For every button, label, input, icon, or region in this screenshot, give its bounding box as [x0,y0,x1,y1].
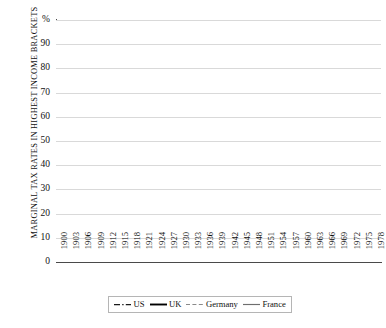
x-tick-label: 1960 [304,232,313,266]
legend-swatch-france [243,301,260,308]
x-tick-label: 1927 [170,232,179,266]
gridline [56,189,381,190]
legend-label: US [134,300,145,309]
gridline [56,117,381,118]
legend-swatch-uk [150,301,167,308]
x-tick-label: 1942 [231,232,240,266]
y-tick-label: 0 [22,257,50,267]
legend-label: France [262,300,285,309]
y-tick-label: 80 [22,63,50,73]
gridline [56,44,381,45]
gridline [56,141,381,142]
legend-item-germany[interactable]: Germany [186,300,237,309]
legend-label: UK [169,300,181,309]
y-tick-label: 50 [22,136,50,146]
x-tick-label: 1966 [328,232,337,266]
x-tick-label: 1975 [365,232,374,266]
marginal-tax-rates-chart: MARGINAL TAX RATES IN HIGHEST INCOME BRA… [0,0,386,328]
gridline [56,68,381,69]
legend-swatch-germany [186,301,203,308]
x-tick-label: 1915 [121,232,130,266]
legend-item-france[interactable]: France [243,300,286,309]
y-tick-label: 60 [22,112,50,122]
legend-item-us[interactable]: US [114,300,145,309]
x-tick-label: 1936 [206,232,215,266]
x-tick-label: 1954 [279,232,288,266]
x-tick-label: 1924 [158,232,167,266]
chart-legend: USUKGermanyFrance [108,296,292,313]
y-tick-label: 20 [22,209,50,219]
gridline [56,93,381,94]
x-tick-label: 1945 [243,232,252,266]
x-tick-label: 1933 [194,232,203,266]
x-tick-label: 1909 [97,232,106,266]
x-tick-label: 1957 [292,232,301,266]
gridline [56,165,381,166]
y-tick-label: 40 [22,160,50,170]
x-tick-label: 1906 [84,232,93,266]
y-tick-label: 90 [22,39,50,49]
x-tick-label: 1972 [353,232,362,266]
x-tick-label: 1969 [340,232,349,266]
y-tick-label: % [22,15,50,25]
x-tick-label: 1930 [182,232,191,266]
x-tick-label: 1918 [133,232,142,266]
x-tick-label: 1921 [145,232,154,266]
x-tick-label: 1948 [255,232,264,266]
x-tick-label: 1912 [109,232,118,266]
legend-label: Germany [206,300,238,309]
y-tick-label: 30 [22,184,50,194]
legend-item-uk[interactable]: UK [150,300,182,309]
x-tick-label: 1900 [60,232,69,266]
gridline [56,214,381,215]
x-tick-label: 1903 [72,232,81,266]
x-tick-label: 1951 [267,232,276,266]
plot-area [56,20,381,262]
legend-swatch-us [114,301,131,308]
x-tick-label: 1978 [377,232,386,266]
y-tick-label: 70 [22,88,50,98]
y-tick-label: 10 [22,233,50,243]
x-tick-label: 1963 [316,232,325,266]
gridline [56,20,381,21]
x-tick-label: 1939 [218,232,227,266]
